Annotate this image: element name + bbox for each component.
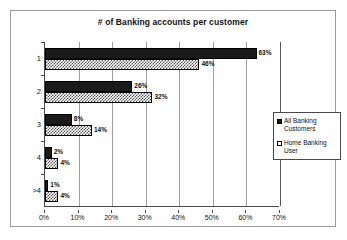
bar-value-label: 14% [94,127,107,134]
bar-value-label: 63% [259,50,272,57]
category-row: 26%32% [45,75,279,108]
y-tick-mark [41,108,44,109]
legend-swatch-icon [277,141,282,146]
bar-value-label: 8% [74,116,83,123]
bar [45,48,257,59]
y-tick-label: 1 [17,54,41,63]
bar [45,92,152,103]
x-tick-mark [245,210,246,213]
bar-group-home-banking-user: 14% [45,125,107,136]
bar [45,114,72,125]
x-tick-mark [111,210,112,213]
category-row: 8%14% [45,108,279,141]
x-tick-mark [145,210,146,213]
legend-swatch-icon [277,119,282,124]
x-tick-mark [178,210,179,213]
category-row: 1%4% [45,174,279,207]
bar-value-label: 4% [60,160,69,167]
bar-group-all-banking-customers: 26% [45,81,147,92]
legend-label: All Banking Customers [284,117,337,133]
y-tick-label: 2 [17,87,41,96]
bar-group-all-banking-customers: 8% [45,114,83,125]
x-tick-label: 30% [138,214,152,221]
y-tick-label: >4 [17,186,41,195]
bar [45,125,92,136]
bar-group-all-banking-customers: 1% [45,180,60,191]
legend-entry: Home Banking User [277,139,337,155]
y-tick-label: 3 [17,120,41,129]
bar [45,147,52,158]
x-tick-mark [78,210,79,213]
x-tick-mark [44,210,45,213]
category-row: 63%46% [45,42,279,75]
x-tick-label: 20% [104,214,118,221]
bar-group-home-banking-user: 46% [45,59,214,70]
chart-title: # of Banking accounts per customer [11,17,335,27]
chart-legend: All Banking CustomersHome Banking User [273,112,341,160]
y-tick-mark [41,42,44,43]
bar [45,81,132,92]
y-tick-mark [41,174,44,175]
bar-group-home-banking-user: 4% [45,191,70,202]
bar-value-label: 1% [50,182,59,189]
bar-value-label: 2% [54,149,63,156]
x-tick-mark [212,210,213,213]
bar-group-home-banking-user: 4% [45,158,70,169]
x-tick-label: 0% [39,214,49,221]
plot-area: 63%46%26%32%8%14%2%4%1%4% [44,42,279,207]
category-row: 2%4% [45,141,279,174]
bar-group-home-banking-user: 32% [45,92,167,103]
x-tick-mark [279,210,280,213]
y-tick-mark [41,75,44,76]
y-tick-mark [41,141,44,142]
bar-value-label: 46% [201,61,214,68]
x-tick-label: 10% [71,214,85,221]
x-tick-label: 50% [205,214,219,221]
bar [45,158,58,169]
bar-value-label: 26% [134,83,147,90]
bar-group-all-banking-customers: 2% [45,147,63,158]
chart-frame: # of Banking accounts per customer 63%46… [10,10,336,227]
x-tick-label: 60% [238,214,252,221]
bar-value-label: 32% [154,94,167,101]
x-tick-label: 70% [272,214,286,221]
bar [45,59,199,70]
legend-label: Home Banking User [284,139,337,155]
x-axis: 0%10%20%30%40%50%60%70% [44,210,279,224]
bar-group-all-banking-customers: 63% [45,48,272,59]
x-tick-label: 40% [171,214,185,221]
y-tick-label: 4 [17,153,41,162]
bar-value-label: 4% [60,193,69,200]
bar [45,191,58,202]
legend-entry: All Banking Customers [277,117,337,133]
bar [45,180,48,191]
